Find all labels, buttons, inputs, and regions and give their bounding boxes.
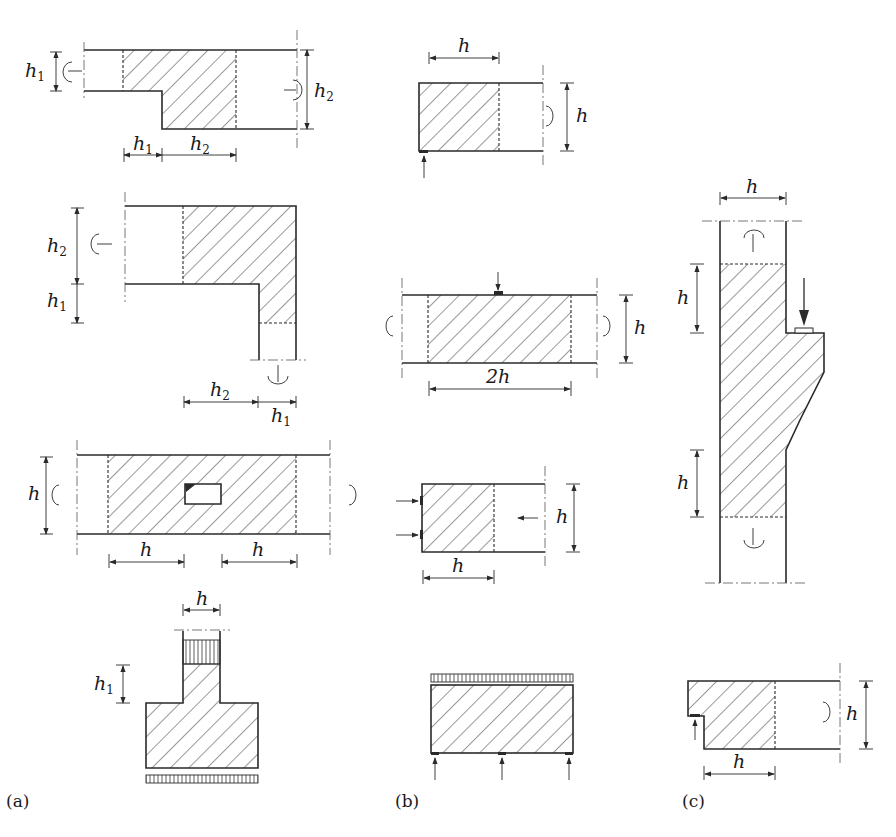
dim-label-h-bottom: h: [733, 750, 745, 772]
dim-label-h-upper: h: [677, 286, 689, 308]
moment-arrow-icon: [744, 540, 764, 548]
stepped-beam: h1 h2 h1 h2: [25, 30, 334, 162]
dim-label-h1: h1: [94, 672, 114, 697]
dim-label-h-right: h: [846, 702, 858, 724]
dim-label-h2-bottom: h2: [190, 132, 210, 157]
dim-label-h2: h2: [314, 79, 334, 104]
concentrated-load-region: h 2h: [386, 272, 646, 396]
dim-label-h-right: h: [576, 104, 588, 126]
moment-arrow-icon: [52, 485, 59, 505]
dim-label-h2: h2: [47, 234, 67, 259]
structural-d-region-diagram: h1 h2 h1 h2: [0, 0, 896, 837]
panel-caption-c: (c): [682, 791, 705, 811]
soil-pressure-plate: [146, 775, 258, 783]
dim-label-h1-bottom: h1: [271, 404, 291, 429]
moment-arrow-icon: [823, 702, 830, 722]
panel-c: h h h h h (c): [677, 175, 873, 811]
column-load-plate: [183, 640, 220, 664]
column-footing: h h1: [94, 587, 258, 783]
dim-label-h-left: h: [140, 538, 152, 560]
dim-label-h-right: h: [252, 538, 264, 560]
panel-a: h1 h2 h1 h2: [6, 30, 356, 811]
beam-end-support: h h: [419, 34, 588, 178]
dim-label-h-lower: h: [677, 471, 689, 493]
dim-label-2h: 2h: [485, 365, 510, 387]
moment-arrow-icon: [63, 62, 72, 82]
distributed-load-plate: [431, 674, 573, 682]
dim-label-h: h: [634, 316, 646, 338]
dim-label-h2-bottom: h2: [210, 378, 230, 403]
dim-label-h: h: [196, 587, 208, 609]
panel-caption-b: (b): [395, 791, 419, 811]
dapped-beam-end: h h: [688, 663, 873, 780]
dim-label-h-bottom: h: [452, 554, 464, 576]
beam-with-opening: h h h: [28, 440, 356, 568]
dim-label-h-right: h: [556, 505, 568, 527]
deep-beam: [431, 674, 573, 780]
moment-arrow-icon: [349, 485, 356, 505]
moment-arrow-icon: [386, 316, 393, 336]
moment-arrow-icon: [603, 316, 610, 336]
dim-label-h-top: h: [746, 175, 758, 197]
dim-label-h: h: [458, 34, 470, 56]
corner-frame-joint: h2 h1 h2 h1: [47, 192, 306, 429]
panel-b: h h h 2h: [386, 34, 646, 811]
dim-label-h1-bottom: h1: [133, 132, 153, 157]
dim-label-h1: h1: [47, 289, 67, 314]
panel-caption-a: (a): [6, 791, 29, 811]
moment-arrow-icon: [744, 230, 764, 238]
moment-arrow-icon: [546, 106, 553, 126]
dim-label-h: h: [28, 482, 40, 504]
column-corbel: h h h: [677, 175, 824, 583]
dim-label-h1: h1: [25, 59, 45, 84]
prestress-anchorage: h h: [396, 466, 580, 584]
